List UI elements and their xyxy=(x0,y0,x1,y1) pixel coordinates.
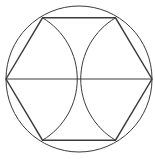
diagram-canvas xyxy=(0,0,155,159)
geometry-diagram xyxy=(0,0,155,159)
